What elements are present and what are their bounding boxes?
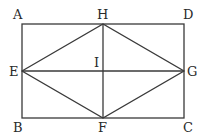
label-c: C: [183, 120, 193, 135]
label-f: F: [98, 120, 107, 135]
label-a: A: [12, 7, 23, 22]
label-b: B: [13, 120, 23, 135]
label-g: G: [187, 64, 197, 79]
label-d: D: [183, 7, 193, 22]
label-i: I: [94, 55, 99, 70]
label-e: E: [9, 64, 19, 79]
label-h: H: [97, 7, 108, 22]
geometry-diagram: A H D E I G B F C: [0, 0, 197, 139]
